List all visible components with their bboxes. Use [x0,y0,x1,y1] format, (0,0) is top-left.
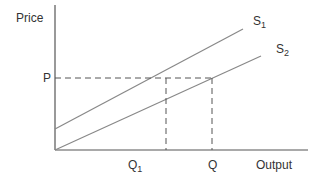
q-label: Q [208,158,217,172]
q1-label: Q1 [128,158,142,172]
q1-base: Q [128,158,137,172]
y-axis-label: Price [16,11,43,25]
s1-base: S [253,14,261,28]
s1-curve [55,29,243,129]
s2-label: S2 [276,42,289,56]
s1-label: S1 [253,14,266,28]
s1-sub: 1 [261,20,266,30]
q1-sub: 1 [137,164,142,174]
s2-sub: 2 [284,48,289,58]
s2-base: S [276,42,284,56]
x-axis-label: Output [256,158,292,172]
s2-curve [55,56,261,150]
supply-shift-diagram [0,0,321,181]
price-label: P [43,71,51,85]
